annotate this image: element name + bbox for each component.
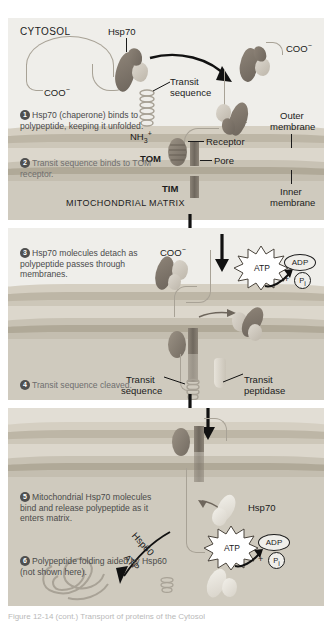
label-hsp70-panel1: Hsp70 xyxy=(108,26,135,37)
panel-step-5-6: Hsp60 ATP ATP ADP + xyxy=(8,408,324,606)
hsp70-released-3b xyxy=(222,578,237,597)
polypeptide-chain-left-tail xyxy=(26,64,43,91)
polypeptide-entering-3 xyxy=(204,418,227,441)
step-3-number: 3 xyxy=(20,248,30,258)
pi-sub-3: i xyxy=(278,560,280,567)
tom-receptor-3 xyxy=(172,428,190,456)
outer-membrane-pore-2 xyxy=(188,328,198,354)
step-5-body: Mitochondrial Hsp70 molecules bind and r… xyxy=(20,492,151,523)
leader-inner-membrane xyxy=(291,170,292,184)
step-4-body: Transit sequence cleaved. xyxy=(32,380,132,390)
leader-transit-peptidase xyxy=(222,370,244,384)
leader-pore xyxy=(200,160,212,161)
label-adp-3: ADP xyxy=(258,534,290,551)
step-1-body: Hsp70 (chaperone) binds to polypeptide, … xyxy=(20,110,143,131)
step-3-text: 3Hsp70 molecules detach as polypeptide p… xyxy=(20,248,170,280)
label-transit-peptidase-l2: peptidase xyxy=(244,385,285,396)
figure-caption: Figure 12-14 (cont.) Transport of protei… xyxy=(8,612,324,624)
nh3-text: NH xyxy=(130,131,144,142)
label-mitochondrial-matrix: MITOCHONDRIAL MATRIX xyxy=(66,198,185,209)
polypeptide-threading-2b xyxy=(174,286,197,317)
step-4-text: 4Transit sequence cleaved. xyxy=(20,380,170,391)
step-1-number: 1 xyxy=(20,110,30,120)
coo-right-charge: − xyxy=(308,42,312,49)
coo-left-text: COO xyxy=(44,87,66,98)
outer-membrane-pore xyxy=(190,142,199,166)
step-5-number: 5 xyxy=(20,492,30,502)
label-transit-peptidase-l1: Transit xyxy=(244,374,273,385)
leader-transit-sequence-1 xyxy=(151,80,171,92)
inner-membrane-pore xyxy=(190,176,199,198)
label-inner-membrane-l1: Inner xyxy=(280,186,302,197)
step-6-body: Polypeptide folding aided by Hsp60 (not … xyxy=(20,556,167,577)
coo-left-charge: − xyxy=(66,86,70,93)
outer-membrane-pore-3 xyxy=(194,426,204,452)
hsp70-released-c xyxy=(248,324,262,341)
label-pore: Pore xyxy=(214,155,234,166)
step-6-text: 6Polypeptide folding aided by Hsp60 (not… xyxy=(20,556,170,577)
label-outer-membrane-l1: Outer xyxy=(280,110,304,121)
label-plus-3: + xyxy=(258,554,263,564)
tom-receptor-texture xyxy=(168,138,187,166)
label-inner-membrane-l2: membrane xyxy=(270,197,315,208)
step-2-text: 2Transit sequence binds to TOM receptor. xyxy=(20,158,170,179)
leader-receptor xyxy=(188,141,204,142)
label-adp-2: ADP xyxy=(284,254,316,271)
label-hsp70-panel3: Hsp70 xyxy=(248,502,275,513)
label-outer-membrane-l2: membrane xyxy=(270,121,315,132)
free-transit-helix-3 xyxy=(156,576,178,596)
label-transit-sequence-panel1-l2: sequence xyxy=(170,87,211,98)
step-1-text: 1Hsp70 (chaperone) binds to polypeptide,… xyxy=(20,110,170,131)
step-5-text: 5Mitochondrial Hsp70 molecules bind and … xyxy=(20,492,170,524)
label-tim: TIM xyxy=(162,183,178,194)
coo-right-text: COO xyxy=(286,43,308,54)
entry-arrow-2 xyxy=(214,234,230,272)
label-coo-right: COO− xyxy=(286,40,312,54)
step-4-number: 4 xyxy=(20,380,30,390)
hsp70-matrix-b xyxy=(212,508,227,526)
label-coo-left: COO− xyxy=(44,84,70,98)
panel-step-3-4: ATP ADP + Pi COO− Transit sequence Trans… xyxy=(8,228,324,400)
label-receptor: Receptor xyxy=(206,136,245,147)
label-transit-sequence-panel1-l1: Transit xyxy=(170,76,199,87)
coo-panel2-charge: − xyxy=(182,246,186,253)
step-2-number: 2 xyxy=(20,158,30,168)
label-cytosol: CYTOSOL xyxy=(20,26,70,37)
figure-mitochondrial-protein-import: CYTOSOL Hsp70 COO− COO− Transit sequence… xyxy=(0,0,332,626)
label-plus-2: + xyxy=(284,274,289,284)
label-pi-2: Pi xyxy=(294,272,311,289)
label-pi-3: Pi xyxy=(268,552,285,569)
step-2-body: Transit sequence binds to TOM receptor. xyxy=(20,158,151,179)
step-6-number: 6 xyxy=(20,556,30,566)
leader-outer-membrane xyxy=(291,134,292,148)
step-3-body: Hsp70 molecules detach as polypeptide pa… xyxy=(20,248,138,279)
pi-sub-2: i xyxy=(304,280,306,287)
nh3-sub: 3 xyxy=(144,137,148,144)
leader-hsp70 xyxy=(126,38,127,52)
adp-arrow-2 xyxy=(264,268,296,290)
panel-step-1-2: CYTOSOL Hsp70 COO− COO− Transit sequence… xyxy=(8,18,324,220)
